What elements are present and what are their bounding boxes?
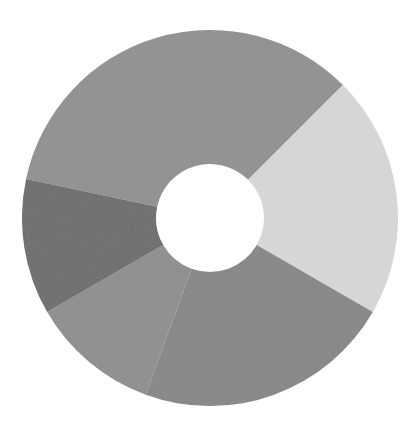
donut-segments bbox=[22, 30, 398, 406]
donut-chart bbox=[0, 0, 419, 432]
